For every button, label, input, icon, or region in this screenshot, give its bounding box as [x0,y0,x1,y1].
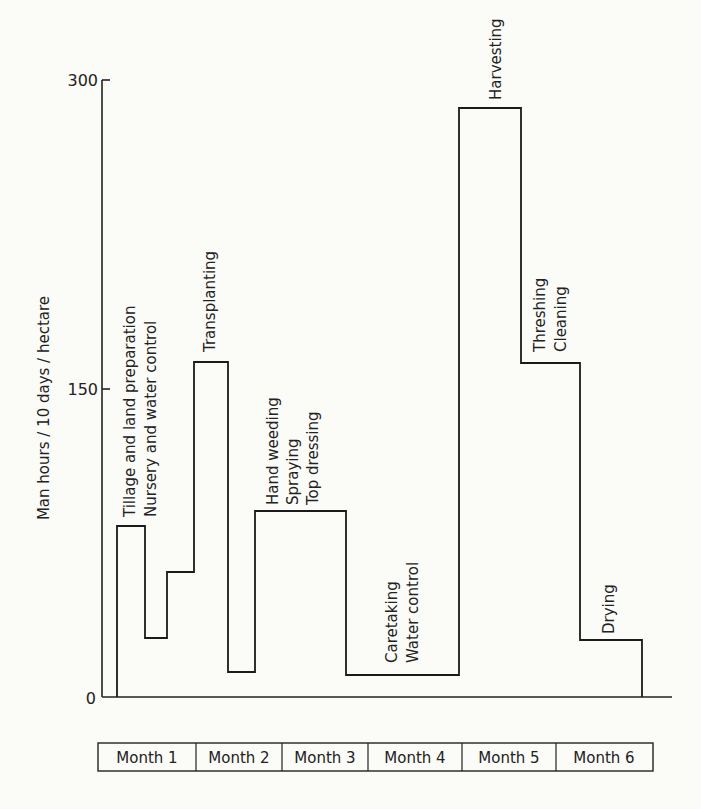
label-cleaning: Cleaning [552,286,570,352]
label-hand-weeding: Hand weeding [264,397,282,505]
label-nursery: Nursery and water control [142,321,160,517]
step-series [117,108,642,697]
label-water-control: Water control [404,562,422,663]
label-transplanting: Transplanting [201,251,219,353]
month-4-label: Month 4 [384,749,445,767]
month-6-label: Month 6 [573,749,634,767]
month-axis-table: Month 1 Month 2 Month 3 Month 4 Month 5 … [98,743,653,771]
label-spraying: Spraying [284,439,302,505]
y-tick-300: 300 [67,71,98,90]
y-axis-label: Man hours / 10 days / hectare [35,296,53,520]
labor-requirement-chart: 300 150 0 Man hours / 10 days / hectare … [0,0,701,809]
label-caretaking: Caretaking [383,581,401,663]
y-tick-150: 150 [67,380,98,399]
month-1-label: Month 1 [116,749,177,767]
label-harvesting: Harvesting [487,18,505,100]
month-3-label: Month 3 [294,749,355,767]
y-tick-0: 0 [86,689,96,708]
annotations: Tillage and land preparation Nursery and… [121,18,618,663]
y-axis: 300 150 0 Man hours / 10 days / hectare [35,71,110,708]
label-threshing: Threshing [531,278,549,353]
label-top-dressing: Top dressing [304,412,322,507]
month-5-label: Month 5 [478,749,539,767]
month-2-label: Month 2 [208,749,269,767]
label-drying: Drying [600,584,618,634]
label-tillage: Tillage and land preparation [121,306,139,518]
